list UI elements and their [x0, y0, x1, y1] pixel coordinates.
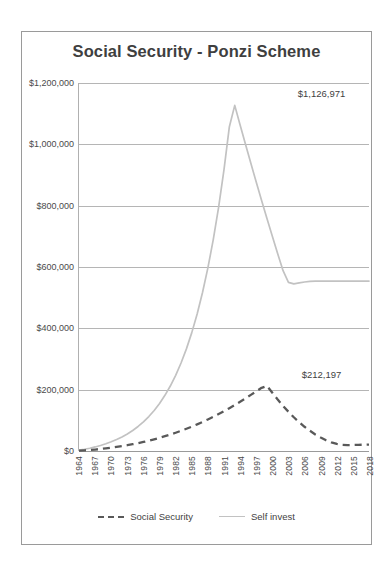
y-tick-label: $0	[64, 446, 74, 456]
legend-swatch-icon	[219, 516, 245, 517]
chart-container: Social Security - Ponzi Scheme $0$200,00…	[21, 31, 372, 545]
x-tick-label: 1988	[203, 456, 213, 476]
data-label: $212,197	[302, 369, 342, 380]
x-tick-label: 1976	[139, 456, 149, 476]
data-label: $1,126,971	[298, 88, 346, 99]
series-lines	[79, 83, 369, 451]
chart-legend: Social SecuritySelf invest	[22, 511, 371, 522]
x-tick-label: 1973	[123, 456, 133, 476]
plot-area: $0$200,000$400,000$600,000$800,000$1,000…	[78, 83, 369, 451]
y-tick-label: $400,000	[36, 323, 74, 333]
legend-label: Social Security	[130, 511, 193, 522]
gridline	[79, 451, 369, 452]
x-tick-label: 1970	[106, 456, 116, 476]
legend-item[interactable]: Social Security	[98, 511, 193, 522]
x-tick-label: 2003	[284, 456, 294, 476]
legend-label: Self invest	[251, 511, 295, 522]
legend-swatch-icon	[98, 516, 124, 518]
y-tick-label: $800,000	[36, 201, 74, 211]
x-tick-label: 1991	[220, 456, 230, 476]
x-tick-label: 2015	[349, 456, 359, 476]
y-tick-label: $200,000	[36, 385, 74, 395]
x-tick-label: 1985	[187, 456, 197, 476]
y-tick-label: $600,000	[36, 262, 74, 272]
x-tick-label: 1979	[155, 456, 165, 476]
legend-item[interactable]: Self invest	[219, 511, 295, 522]
x-tick-label: 1964	[74, 456, 84, 476]
x-tick-label: 2000	[268, 456, 278, 476]
x-tick-label: 1967	[90, 456, 100, 476]
x-tick-label: 1982	[171, 456, 181, 476]
line-self-invest	[79, 105, 369, 450]
x-tick-label: 1994	[236, 456, 246, 476]
x-tick-label: 2006	[300, 456, 310, 476]
y-tick-label: $1,200,000	[29, 78, 74, 88]
y-tick-label: $1,000,000	[29, 139, 74, 149]
chart-title: Social Security - Ponzi Scheme	[22, 42, 371, 61]
line-social-security	[79, 386, 369, 451]
x-tick-label: 2009	[317, 456, 327, 476]
x-tick-label: 2012	[333, 456, 343, 476]
x-tick-label: 1997	[252, 456, 262, 476]
x-tick-label: 2018	[365, 456, 375, 476]
